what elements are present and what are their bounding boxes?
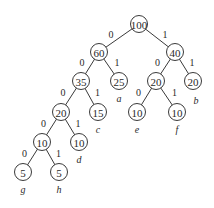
tree-node: 10 bbox=[129, 104, 146, 121]
edge-label: 1 bbox=[76, 118, 81, 129]
node-value: 20 bbox=[188, 76, 200, 88]
node-value: 5 bbox=[20, 167, 26, 179]
edge-label: 0 bbox=[155, 57, 160, 68]
tree-node: 15 bbox=[90, 104, 107, 121]
node-value: 5 bbox=[56, 167, 62, 179]
edge-label: 0 bbox=[22, 148, 27, 159]
huffman-tree-diagram: 01010101010101 1006040352520202015101010… bbox=[0, 0, 214, 208]
edge-label: 0 bbox=[136, 87, 141, 98]
tree-node: 25 bbox=[111, 73, 128, 90]
leaf-symbol-label: b bbox=[194, 95, 199, 106]
edge-label: 0 bbox=[80, 57, 85, 68]
edges-layer bbox=[23, 24, 193, 172]
tree-node: 10 bbox=[71, 134, 88, 151]
tree-node: 10 bbox=[169, 104, 186, 121]
leaf-symbol-label: d bbox=[77, 154, 83, 165]
node-value: 100 bbox=[131, 19, 148, 31]
tree-node: 35 bbox=[73, 73, 90, 90]
edge-label: 0 bbox=[61, 87, 66, 98]
edge-label: 1 bbox=[95, 87, 100, 98]
tree-node: 5 bbox=[51, 164, 68, 181]
edge-label: 1 bbox=[115, 57, 120, 68]
node-value: 10 bbox=[37, 137, 49, 149]
tree-node: 20 bbox=[53, 104, 70, 121]
node-value: 40 bbox=[170, 47, 182, 59]
leaf-symbol-label: f bbox=[176, 124, 180, 135]
node-value: 10 bbox=[172, 107, 184, 119]
node-value: 10 bbox=[74, 137, 86, 149]
leaf-symbol-label: e bbox=[135, 124, 140, 135]
node-value: 35 bbox=[76, 76, 88, 88]
tree-node: 100 bbox=[131, 16, 148, 33]
tree-node: 5 bbox=[15, 164, 32, 181]
edge-label: 0 bbox=[41, 118, 46, 129]
tree-node: 20 bbox=[148, 73, 165, 90]
nodes-layer: 10060403525202020151010101055 bbox=[15, 16, 202, 181]
node-value: 20 bbox=[151, 76, 163, 88]
edge-label: 0 bbox=[109, 29, 114, 40]
node-value: 60 bbox=[94, 47, 106, 59]
tree-node: 40 bbox=[167, 44, 184, 61]
edge-label: 1 bbox=[172, 87, 177, 98]
edge-label: 1 bbox=[56, 148, 61, 159]
leaf-symbol-label: c bbox=[96, 124, 101, 135]
node-value: 15 bbox=[93, 107, 105, 119]
tree-node: 10 bbox=[34, 134, 51, 151]
leaf-symbol-label: a bbox=[117, 93, 122, 104]
node-value: 20 bbox=[56, 107, 68, 119]
tree-node: 20 bbox=[185, 73, 202, 90]
edge-label: 1 bbox=[190, 57, 195, 68]
node-value: 25 bbox=[114, 76, 126, 88]
tree-node: 60 bbox=[91, 44, 108, 61]
edge-label: 1 bbox=[163, 29, 168, 40]
node-value: 10 bbox=[132, 107, 144, 119]
leaf-symbol-label: g bbox=[21, 184, 26, 195]
leaf-symbol-label: h bbox=[57, 184, 62, 195]
